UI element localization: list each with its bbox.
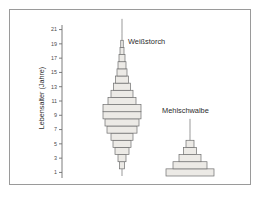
y-axis-tick-label: 5 — [54, 141, 57, 147]
pyramid-bar — [114, 83, 131, 90]
chart-page: 13579111315171921 Lebensalter (Jahre) We… — [0, 0, 261, 202]
y-axis-tick-label: 19 — [51, 41, 57, 47]
pyramid-bar — [111, 90, 133, 97]
y-axis-tick-label: 7 — [54, 126, 57, 132]
pyramid-bar — [108, 97, 136, 104]
pyramid-bar — [118, 155, 126, 162]
y-axis-tick-label: 13 — [51, 84, 57, 90]
pyramid-bar — [105, 119, 139, 126]
pyramid-bar — [113, 140, 131, 147]
pyramid-bar — [179, 155, 201, 162]
pyramid-bar — [119, 55, 125, 62]
y-axis-tick-label: 11 — [51, 98, 57, 104]
series-label-mehlschwalbe: Mehlschwalbe — [162, 106, 209, 115]
y-axis-tick-label: 17 — [51, 55, 57, 61]
pyramid-bar — [111, 133, 133, 140]
pyramid-bar — [121, 40, 124, 47]
pyramid-bar — [173, 162, 207, 169]
y-axis-tick-label: 9 — [54, 112, 57, 118]
y-axis-tick-label: 1 — [54, 169, 57, 175]
pyramid-bar — [103, 112, 141, 119]
pyramid-bar — [184, 147, 197, 154]
y-axis-tick-label: 15 — [51, 69, 57, 75]
y-axis-tick-label: 21 — [51, 26, 57, 32]
pyramid-bar — [118, 62, 126, 69]
pyramid-bar — [117, 69, 127, 76]
pyramid-bar — [116, 76, 129, 83]
population-pyramid-chart: 13579111315171921 Lebensalter (Jahre) We… — [10, 10, 252, 186]
pyramid-bar — [186, 140, 194, 147]
pyramid-bar — [166, 169, 214, 176]
y-axis-title: Lebensalter (Jahre) — [37, 67, 46, 129]
series-mehlschwalbe-bars — [166, 119, 214, 176]
y-axis: 13579111315171921 — [51, 25, 62, 178]
pyramid-bar — [120, 47, 124, 54]
pyramid-bar — [120, 162, 125, 169]
series-label-weissstorch: Weißstorch — [128, 37, 165, 46]
figure-frame: 13579111315171921 Lebensalter (Jahre) We… — [9, 9, 251, 185]
pyramid-bar — [107, 126, 137, 133]
pyramid-bar — [115, 147, 129, 154]
y-axis-tick-label: 3 — [54, 155, 57, 161]
pyramid-bar — [103, 105, 141, 112]
